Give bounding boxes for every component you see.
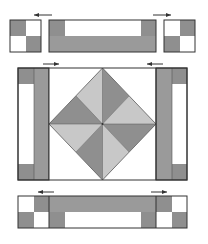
middle-row: [18, 64, 187, 180]
four-patch-top-right: [164, 20, 195, 52]
strip-unit-bottom: [49, 196, 156, 228]
quilt-diagram: [0, 0, 208, 244]
top-row: [10, 15, 195, 52]
four-patch-top-left: [10, 20, 41, 52]
four-patch-bottom-left: [18, 196, 49, 228]
bottom-row: [18, 192, 187, 228]
side-unit-right: [156, 68, 187, 180]
square-in-square-center: [49, 68, 156, 180]
four-patch-bottom-right: [156, 196, 187, 228]
side-unit-left: [18, 68, 49, 180]
strip-unit-top: [49, 20, 156, 52]
